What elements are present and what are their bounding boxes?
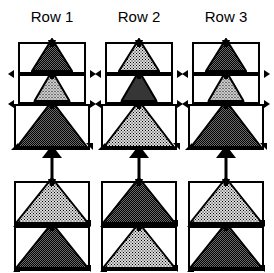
- triangle-cell-1-top-3: [14, 104, 90, 150]
- bottom-group-1: [14, 181, 90, 271]
- left-tick-icon: [182, 70, 188, 78]
- corner-tick-icon: [173, 143, 180, 150]
- triangle-cell-2-bot-2: [101, 226, 177, 271]
- bottom-group-3: [188, 181, 264, 271]
- top-group-2: [101, 42, 177, 150]
- triangle-cell-2-bot-1: [101, 181, 177, 226]
- corner-tick-icon: [13, 265, 20, 272]
- arrow-up-icon-1: [42, 145, 62, 180]
- triangle-cell-3-bot-2: [188, 226, 264, 271]
- corner-tick-icon: [84, 265, 91, 272]
- left-tick-icon: [95, 70, 101, 78]
- corner-tick-icon: [100, 265, 107, 272]
- column-label-1: Row 1: [14, 8, 90, 25]
- column-label-3: Row 3: [188, 8, 264, 25]
- top-group-3: [188, 42, 264, 150]
- arrow-up-icon-2: [129, 145, 149, 180]
- top-group-1: [14, 42, 90, 150]
- corner-tick-icon: [187, 265, 194, 272]
- column-1: Row 1: [14, 0, 90, 273]
- column-2: Row 2: [101, 0, 177, 273]
- corner-tick-icon: [98, 143, 105, 150]
- arrow-up-icon-3: [216, 145, 236, 180]
- left-tick-icon: [8, 70, 14, 78]
- triangle-row-diagram: Row 1Row 2Row 3: [0, 0, 274, 273]
- corner-tick-icon: [11, 143, 18, 150]
- column-3: Row 3: [188, 0, 264, 273]
- triangle-cell-3-bot-1: [188, 181, 264, 226]
- triangle-cell-3-top-3: [188, 104, 264, 150]
- bottom-group-2: [101, 181, 177, 271]
- corner-tick-icon: [171, 265, 178, 272]
- left-tick-icon: [8, 100, 14, 108]
- corner-tick-icon: [258, 265, 265, 272]
- triangle-cell-1-bot-1: [14, 181, 90, 226]
- corner-tick-icon: [86, 143, 93, 150]
- left-tick-icon: [95, 100, 101, 108]
- right-tick-icon: [264, 70, 270, 78]
- triangle-cell-1-bot-2: [14, 226, 90, 271]
- corner-tick-icon: [260, 143, 267, 150]
- triangle-cell-2-top-3: [101, 104, 177, 150]
- column-label-2: Row 2: [101, 8, 177, 25]
- right-tick-icon: [264, 100, 270, 108]
- left-tick-icon: [182, 100, 188, 108]
- corner-tick-icon: [185, 143, 192, 150]
